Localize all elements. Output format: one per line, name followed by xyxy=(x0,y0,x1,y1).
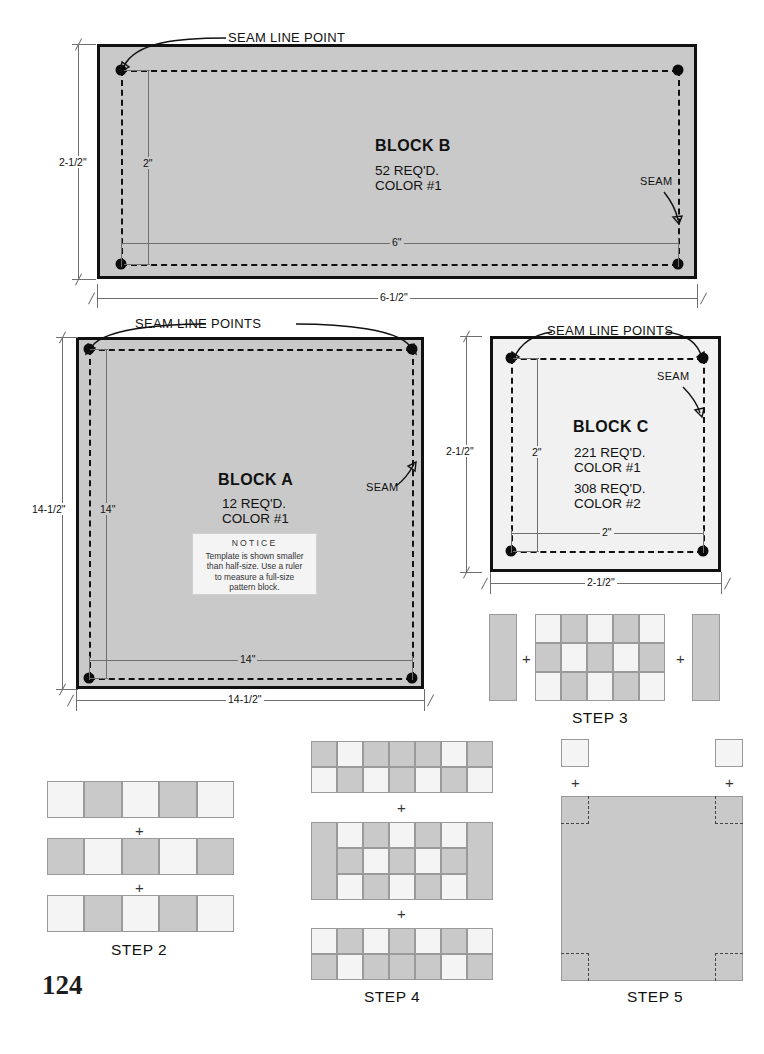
patch-r2-c4 xyxy=(389,954,415,980)
patch-r3-c2 xyxy=(561,672,587,701)
patch-r2-c4 xyxy=(415,848,441,874)
block-a-dim-h-inner-ext-bot xyxy=(90,678,108,679)
patch-r1-c2 xyxy=(84,838,121,875)
patch-r1-c4 xyxy=(159,895,196,932)
patch-r3-c2 xyxy=(363,874,389,900)
block-c-color-1: COLOR #1 xyxy=(574,460,641,476)
step4-bottom-unit xyxy=(311,928,493,980)
block-b-seam-point-tr xyxy=(673,65,684,76)
block-b-dim-width-inner: 6" xyxy=(390,236,404,248)
patch-r2-c2 xyxy=(337,954,363,980)
patch-r1-c5 xyxy=(197,838,234,875)
block-b-dim-height-inner: 2" xyxy=(141,157,155,169)
patch-r1-c4 xyxy=(389,741,415,767)
patch-r3-c1 xyxy=(535,672,561,701)
patch-r2-c7 xyxy=(467,954,493,980)
block-c-dim-width-inner: 2" xyxy=(600,526,614,538)
block-a-tick-wo-l xyxy=(67,695,74,707)
block-a-title: BLOCK A xyxy=(218,471,293,489)
block-c-color-2: COLOR #2 xyxy=(574,496,641,512)
patch-r2-c6 xyxy=(441,954,467,980)
block-b-dim-h-inner-ext-bot xyxy=(124,264,150,265)
patch-r1-c3 xyxy=(389,822,415,848)
block-c-dim-h-outer-ext-top xyxy=(460,336,482,337)
block-b-seam-bottom xyxy=(121,264,678,266)
patch-r1-c4 xyxy=(389,928,415,954)
block-c-dim-width-outer: 2-1/2" xyxy=(585,576,617,588)
block-b-seam-right xyxy=(678,70,680,264)
step3-plus-left: + xyxy=(522,651,531,666)
notice-line-4: pattern block. xyxy=(229,582,279,592)
block-c-dim-w-outer-ext-r xyxy=(721,572,722,594)
step3-left-bar xyxy=(489,614,517,701)
step4-middle-grid xyxy=(337,822,467,900)
patch-r3-c5 xyxy=(639,672,665,701)
patch-r1-c4 xyxy=(415,822,441,848)
patch-r1-c2 xyxy=(363,822,389,848)
patch-r1-c2 xyxy=(337,741,363,767)
patch-r1-c5 xyxy=(197,895,234,932)
patch-r2-c7 xyxy=(467,767,493,793)
pattern-page: SEAM LINE POINT SEAM BLOCK B 52 REQ'D. C… xyxy=(0,0,764,1054)
step3-plus-right: + xyxy=(676,651,685,666)
patch-r3-c3 xyxy=(587,672,613,701)
patch-r1-c5 xyxy=(441,822,467,848)
block-a-qty: 12 REQ'D. xyxy=(222,496,286,512)
block-b-dim-h-inner-ext-top xyxy=(124,70,150,71)
block-c-tick-wo-r xyxy=(724,578,731,590)
patch-r2-c5 xyxy=(441,848,467,874)
patch-r1-c3 xyxy=(122,895,159,932)
step4-plus-1: + xyxy=(397,800,406,815)
patch-r2-c3 xyxy=(363,767,389,793)
block-c-dim-w-inner-ext-r xyxy=(703,529,704,553)
patch-r3-c1 xyxy=(337,874,363,900)
step5-corner-mark-bl xyxy=(561,953,589,981)
block-c-dim-h-inner-ext-bot xyxy=(513,551,539,552)
block-c-qty-1: 221 REQ'D. xyxy=(574,445,646,461)
block-a-tick-wo-r xyxy=(427,695,434,707)
page-number: 124 xyxy=(42,970,83,1001)
patch-r1-c2 xyxy=(84,781,121,818)
block-b-title: BLOCK B xyxy=(375,137,451,155)
notice-line-3: to measure a full-size xyxy=(215,572,295,582)
block-b-dim-w-inner-ext-l xyxy=(121,239,122,267)
patch-r1-c3 xyxy=(122,781,159,818)
patch-r1-c4 xyxy=(159,781,196,818)
block-b-tick-wo-r xyxy=(700,293,707,305)
block-c-dim-w-inner-ext-l xyxy=(511,529,512,553)
step3-label: STEP 3 xyxy=(572,709,628,727)
block-b-dim-height-outer: 2-1/2" xyxy=(57,156,89,168)
patch-r2-c2 xyxy=(337,767,363,793)
patch-r1-c4 xyxy=(613,614,639,643)
block-a-seam-line-points-label: SEAM LINE POINTS xyxy=(135,316,261,331)
step4-top-unit xyxy=(311,741,493,793)
step5-label: STEP 5 xyxy=(627,988,683,1006)
block-a-color: COLOR #1 xyxy=(222,511,289,527)
block-c-dim-h-inner-ext-top xyxy=(513,358,539,359)
block-b-dim-w-outer-ext-l xyxy=(97,284,98,308)
step2-label: STEP 2 xyxy=(111,941,167,959)
block-a-dim-w-outer-ext-r xyxy=(424,689,425,711)
notice-line-1: Template is shown smaller xyxy=(205,551,303,561)
patch-r1-c4 xyxy=(159,838,196,875)
block-c-dim-height-outer: 2-1/2" xyxy=(444,445,476,457)
block-c-dim-h-outer-ext-bot xyxy=(460,572,482,573)
patch-r1-c1 xyxy=(47,838,84,875)
patch-r1-c3 xyxy=(363,741,389,767)
patch-r2-c1 xyxy=(311,954,337,980)
block-b-qty: 52 REQ'D. xyxy=(375,163,439,179)
notice-line-2: than half-size. Use a ruler xyxy=(207,561,302,571)
patch-r1-c2 xyxy=(561,614,587,643)
patch-r1-c6 xyxy=(441,928,467,954)
block-a-seam-bottom xyxy=(89,678,412,680)
block-b-tick-wo-l xyxy=(88,293,95,305)
block-b-color: COLOR #1 xyxy=(375,178,442,194)
patch-r1-c6 xyxy=(441,741,467,767)
block-b-dim-w-inner-ext-r xyxy=(678,239,679,267)
step2-row-2 xyxy=(47,838,234,875)
block-a-seam-leader xyxy=(396,462,418,488)
patch-r1-c2 xyxy=(337,928,363,954)
patch-r1-c1 xyxy=(311,741,337,767)
block-a-dim-h-outer-ext-top xyxy=(56,337,78,338)
patch-r2-c5 xyxy=(415,767,441,793)
